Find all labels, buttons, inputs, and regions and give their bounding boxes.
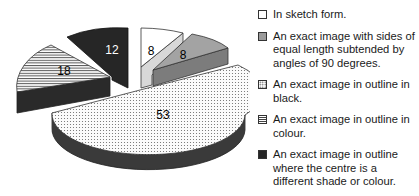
legend-item-square: An exact image with sides of equal lengt…: [258, 30, 418, 71]
pie-chart: 53 18 12 8 8: [0, 0, 250, 196]
legend-item-different-centre: An exact image in outline where the cent…: [258, 148, 418, 189]
dotted-swatch-icon: [258, 80, 267, 89]
label-square: 8: [180, 48, 187, 62]
label-sketch: 8: [148, 44, 155, 58]
legend-item-sketch: In sketch form.: [258, 8, 418, 22]
striped-swatch-icon: [258, 115, 267, 124]
white-swatch-icon: [258, 10, 267, 19]
label-colour-outline: 18: [57, 64, 71, 78]
legend-item-colour-outline: An exact image in outline in colour.: [258, 113, 418, 140]
legend-item-black-outline: An exact image in outline in black.: [258, 78, 418, 105]
legend-label: An exact image with sides of equal lengt…: [273, 30, 415, 69]
black-swatch-icon: [258, 150, 267, 159]
label-black-outline: 53: [156, 108, 170, 122]
label-different-centre: 12: [105, 43, 119, 57]
legend-label: An exact image in outline in colour.: [273, 113, 410, 139]
legend: In sketch form. An exact image with side…: [258, 8, 418, 196]
gray-swatch-icon: [258, 32, 267, 41]
legend-label: An exact image in outline where the cent…: [273, 148, 398, 187]
legend-label: In sketch form.: [273, 8, 346, 20]
legend-label: An exact image in outline in black.: [273, 78, 410, 104]
